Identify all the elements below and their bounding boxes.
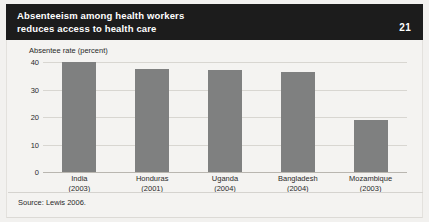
- bar-slot: [116, 62, 189, 172]
- figure-number: 21: [399, 22, 411, 33]
- title-line-2: reduces access to health care: [17, 23, 317, 36]
- category-name: India: [71, 174, 87, 183]
- x-tick-label: India(2003): [43, 174, 116, 193]
- category-name: Bangladesh: [278, 174, 318, 183]
- category-name: Honduras: [136, 174, 169, 183]
- page-title: Absenteeism among health workers reduces…: [17, 10, 317, 35]
- bar-series: [43, 62, 407, 172]
- bar-slot: [261, 62, 334, 172]
- x-tick-label: Uganda(2004): [189, 174, 262, 193]
- y-tick-label: 20: [31, 113, 39, 122]
- bar-slot: [43, 62, 116, 172]
- plot-area: 010203040: [43, 62, 407, 172]
- category-name: Mozambique: [349, 174, 392, 183]
- bar-india: [62, 62, 96, 172]
- x-axis-categories: India(2003)Honduras(2001)Uganda(2004)Ban…: [43, 174, 407, 193]
- bar-slot: [189, 62, 262, 172]
- figure-header: Absenteeism among health workers reduces…: [6, 4, 423, 40]
- bar-mozambique: [354, 120, 388, 172]
- bar-honduras: [135, 69, 169, 172]
- bar-slot: [334, 62, 407, 172]
- gridline-0: 0: [43, 172, 407, 173]
- bar-bangladesh: [281, 72, 315, 172]
- x-tick-label: Mozambique(2003): [334, 174, 407, 193]
- title-line-1: Absenteeism among health workers: [17, 10, 184, 21]
- y-tick-label: 40: [31, 58, 39, 67]
- category-name: Uganda: [212, 174, 238, 183]
- y-tick-label: 0: [35, 168, 39, 177]
- figure-container: Absenteeism among health workers reduces…: [0, 0, 429, 222]
- y-tick-label: 10: [31, 140, 39, 149]
- bar-uganda: [208, 70, 242, 172]
- divider: [8, 192, 423, 193]
- y-axis-label: Absentee rate (percent): [29, 46, 108, 55]
- x-tick-label: Bangladesh(2004): [261, 174, 334, 193]
- chart-panel: Absentee rate (percent) 010203040 India(…: [6, 40, 423, 218]
- y-tick-label: 30: [31, 85, 39, 94]
- x-tick-label: Honduras(2001): [116, 174, 189, 193]
- source-note: Source: Lewis 2006.: [18, 198, 86, 207]
